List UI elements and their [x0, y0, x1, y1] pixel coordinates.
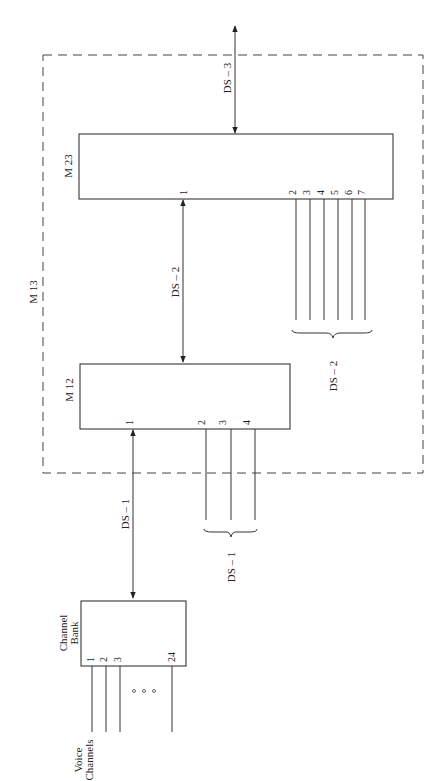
m23-port-5: 5 — [329, 190, 340, 195]
m23-port-1: 1 — [178, 190, 189, 195]
ds2-link-label: DS – 2 — [169, 267, 181, 298]
m12-port-4: 4 — [241, 420, 252, 425]
m12-block: M 12 1 2 3 4 — [63, 364, 290, 429]
m23-port-3: 3 — [301, 190, 312, 195]
m23-port-6: 6 — [343, 190, 354, 195]
channel-bank-input-1: 1 — [85, 657, 96, 662]
m23-brace — [292, 330, 372, 338]
multiplexing-hierarchy-diagram: M 13 M 23 1 2 3 4 5 6 7 DS – 2 DS – 3 DS… — [0, 0, 436, 781]
ds1-link-label: DS – 1 — [119, 499, 131, 530]
channel-bank-input-3: 3 — [112, 657, 123, 662]
ellipsis-dots — [133, 690, 156, 693]
m12-port-1: 1 — [124, 420, 135, 425]
m12-ds1-tributaries: DS – 1 — [204, 429, 257, 582]
voice-channels-label-line2: Channels — [83, 740, 95, 781]
m12-brace — [204, 529, 257, 537]
m12-port-2: 2 — [196, 420, 207, 425]
m23-port-2: 2 — [287, 190, 298, 195]
m12-port-3: 3 — [217, 420, 228, 425]
m23-port-7: 7 — [356, 190, 367, 195]
m23-group-label: DS – 2 — [327, 361, 339, 392]
voice-channel-lines — [92, 666, 172, 732]
m12-group-label: DS – 1 — [225, 552, 237, 583]
m13-label: M 13 — [27, 280, 39, 304]
m23-label: M 23 — [62, 154, 74, 178]
ds3-link-label: DS – 3 — [221, 62, 233, 93]
channel-bank-label-line2: Bank — [68, 621, 80, 645]
channel-bank-input-2: 2 — [98, 657, 109, 662]
m23-port-4: 4 — [315, 190, 326, 195]
channel-bank-input-24: 24 — [166, 652, 177, 662]
m23-ds2-tributaries: DS – 2 — [292, 199, 372, 391]
m23-block: M 23 1 2 3 4 5 6 7 — [62, 134, 393, 199]
channel-bank-block: Channel Bank 1 2 3 24 — [57, 601, 186, 666]
m12-label: M 12 — [63, 378, 75, 402]
